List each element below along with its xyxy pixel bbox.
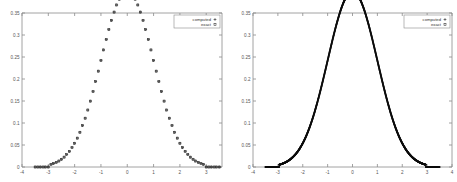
legend-label: exact xyxy=(201,22,212,27)
x-tick-label: 1 xyxy=(376,170,379,175)
x-tick-label: 1 xyxy=(152,170,155,175)
y-tick-label: 0.05 xyxy=(242,143,251,148)
y-tick-labels-left: 00.050.10.150.20.250.30.35 xyxy=(11,11,20,170)
data-point xyxy=(278,166,280,168)
y-tick-label: 0.15 xyxy=(242,99,251,104)
x-tick-label: 3 xyxy=(426,170,429,175)
y-tick-label: 0 xyxy=(17,165,20,170)
x-tick-label: -1 xyxy=(99,170,104,175)
legend-right: computedexact xyxy=(404,15,450,28)
x-tick-labels-left: -4-3-2-10123 xyxy=(20,170,208,175)
axis-ticks-left xyxy=(22,13,222,167)
y-tick-labels-right: 00.050.10.150.20.250.30.35 xyxy=(242,11,251,170)
axis-frame-right xyxy=(253,13,452,167)
axis-ticks-right xyxy=(253,13,452,167)
plot-left: 00.050.10.150.20.250.30.35 -4-3-2-10123 … xyxy=(0,0,228,182)
legend-label: exact xyxy=(431,22,442,27)
data-point xyxy=(439,166,441,168)
y-tick-label: 0.3 xyxy=(13,33,20,38)
x-tick-label: -4 xyxy=(20,170,25,175)
x-tick-label: 2 xyxy=(401,170,404,175)
y-tick-label: 0.25 xyxy=(242,55,251,60)
figure-root: 00.050.10.150.20.250.30.35 -4-3-2-10123 … xyxy=(0,0,457,182)
y-tick-label: 0.2 xyxy=(13,77,20,82)
y-tick-label: 0.1 xyxy=(244,121,251,126)
x-tick-label: 0 xyxy=(126,170,129,175)
y-tick-label: 0 xyxy=(248,165,251,170)
y-tick-label: 0.15 xyxy=(11,99,20,104)
y-tick-label: 0.35 xyxy=(242,11,251,16)
y-tick-label: 0.3 xyxy=(244,33,251,38)
y-tick-label: 0.35 xyxy=(11,11,20,16)
data-point xyxy=(425,164,427,166)
x-tick-label: -2 xyxy=(301,170,306,175)
x-tick-labels-right: -4-3-2-101234 xyxy=(251,170,454,175)
y-tick-label: 0.25 xyxy=(11,55,20,60)
x-tick-label: 0 xyxy=(351,170,354,175)
x-tick-label: -3 xyxy=(276,170,281,175)
chart-panel-right: 00.050.10.150.20.250.30.35 -4-3-2-101234… xyxy=(229,0,457,182)
axis-frame-left xyxy=(22,13,222,167)
x-tick-label: 2 xyxy=(179,170,182,175)
chart-panel-left: 00.050.10.150.20.250.30.35 -4-3-2-10123 … xyxy=(0,0,228,182)
x-tick-label: 4 xyxy=(451,170,454,175)
x-tick-label: 3 xyxy=(205,170,208,175)
y-tick-label: 0.05 xyxy=(11,143,20,148)
legend-left: computedexact xyxy=(174,15,220,28)
x-tick-label: -3 xyxy=(46,170,51,175)
x-tick-label: -4 xyxy=(251,170,256,175)
plot-right: 00.050.10.150.20.250.30.35 -4-3-2-101234… xyxy=(229,0,457,182)
y-tick-label: 0.2 xyxy=(244,77,251,82)
x-tick-label: -2 xyxy=(73,170,78,175)
x-tick-label: -1 xyxy=(326,170,331,175)
y-tick-label: 0.1 xyxy=(13,121,20,126)
